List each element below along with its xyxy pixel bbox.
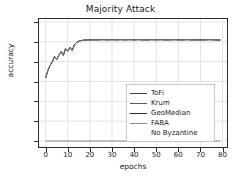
legend-label: ToFi (151, 88, 164, 98)
legend-item: Krum (130, 98, 210, 108)
legend-item: No Byzantine (130, 128, 210, 138)
x-tick-mark (134, 148, 135, 152)
chart-figure: Majority Attack accuracy epochs 0.10.20.… (0, 0, 241, 179)
legend-color-swatch (130, 113, 147, 114)
x-tick-mark (200, 148, 201, 152)
x-tick-mark (178, 148, 179, 152)
y-axis-label: accuracy (6, 26, 15, 96)
x-tick-mark (46, 148, 47, 152)
legend-item: FABA (130, 118, 210, 128)
x-tick-mark (156, 148, 157, 152)
legend-color-swatch (130, 103, 147, 104)
legend-item: ToFi (130, 88, 210, 98)
x-tick-label: 80 (208, 151, 238, 159)
chart-title: Majority Attack (0, 4, 241, 14)
x-tick-mark (223, 148, 224, 152)
series-line-geomedian (46, 40, 221, 78)
legend-label: Krum (151, 98, 170, 108)
series-line-tofi (46, 40, 221, 78)
legend-color-swatch (130, 93, 147, 94)
series-line-krum (46, 40, 221, 78)
chart-legend: ToFiKrumGeoMedianFABANo Byzantine (126, 84, 215, 142)
legend-color-swatch (130, 123, 147, 124)
legend-label: No Byzantine (151, 128, 198, 138)
series-line-faba (46, 40, 221, 78)
x-tick-mark (90, 148, 91, 152)
x-tick-mark (68, 148, 69, 152)
x-axis-label: epochs (38, 162, 228, 171)
legend-item: GeoMedian (130, 108, 210, 118)
x-tick-mark (112, 148, 113, 152)
legend-label: FABA (151, 118, 169, 128)
legend-label: GeoMedian (151, 108, 190, 118)
